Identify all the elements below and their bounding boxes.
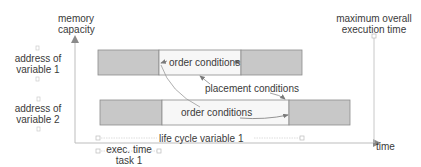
- max-time-label: maximum overall execution time: [336, 13, 412, 35]
- exectime-handle-left: [96, 149, 100, 153]
- row1-gray-right: [241, 50, 302, 75]
- row1-address-label: address of variable 1: [14, 53, 62, 75]
- lifecycle-handle-left: [96, 136, 100, 140]
- y-axis-label-line1: memory: [58, 13, 94, 24]
- exectime-handle-right: [157, 149, 161, 153]
- row2-address-line2: variable 2: [14, 114, 62, 125]
- max-time-line1: maximum overall: [336, 13, 412, 24]
- lifecycle-handle-right: [300, 136, 304, 140]
- exectime-line2: task 1: [102, 155, 156, 166]
- row1-gray-left: [98, 50, 159, 75]
- addr2-handle-top: [37, 97, 40, 101]
- exectime-line1: exec. time: [102, 144, 156, 155]
- row1-address-line1: address of: [14, 53, 62, 64]
- row2-address-line1: address of: [14, 103, 62, 114]
- row2-gray-right: [289, 100, 350, 125]
- placement-conditions: placement conditions: [205, 83, 299, 94]
- row2-order-conditions: order conditions: [181, 107, 252, 118]
- y-axis-label: memory capacity: [58, 13, 94, 35]
- max-time-line2: execution time: [336, 24, 412, 35]
- row2-address-label: address of variable 2: [14, 103, 62, 125]
- addr1-handle-top: [36, 46, 39, 50]
- row1-order-conditions: order conditions: [169, 57, 240, 68]
- row2-gray-left: [100, 100, 162, 125]
- y-axis-label-line2: capacity: [58, 24, 94, 35]
- addr2-handle-bottom: [37, 127, 40, 131]
- row1-address-line2: variable 1: [14, 64, 62, 75]
- addr1-handle-bottom: [36, 77, 39, 81]
- exectime-label: exec. time task 1: [102, 144, 156, 166]
- x-axis-label: time: [376, 141, 395, 152]
- lifecycle-label: life cycle variable 1: [159, 133, 243, 144]
